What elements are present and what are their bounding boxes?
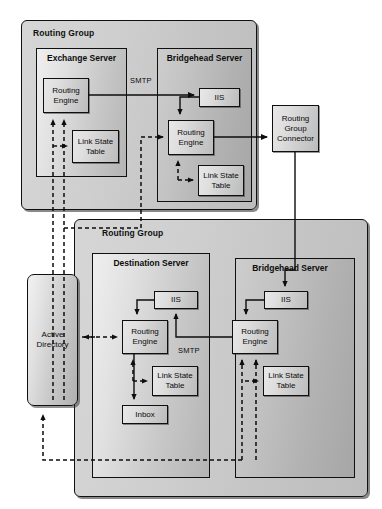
- diagram-canvas: Routing Group Exchange Server Routing En…: [0, 0, 382, 509]
- line-bhbot-iis-to-engine: [246, 300, 264, 314]
- line-bhtop-iis-to-engine: [180, 97, 199, 114]
- dashed-bottom-rail: [43, 415, 242, 460]
- line-rgc-to-bhbot-iis: [285, 152, 295, 286]
- line-smtp-bhbot-to-dest-iis: [176, 314, 232, 337]
- smtp-label-top: SMTP: [130, 76, 152, 85]
- smtp-label-bottom: SMTP: [178, 346, 200, 355]
- line-dest-iis-to-engine: [137, 300, 154, 314]
- connector-lines: [0, 0, 382, 509]
